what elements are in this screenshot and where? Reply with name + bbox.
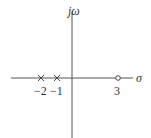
pole-label-minus-1: −1 [50, 85, 63, 97]
zero-label-3: 3 [114, 85, 120, 97]
pole-label-minus-2: −2 [34, 85, 47, 97]
zero-marker-3 [116, 76, 121, 81]
imaginary-axis-label: jω [68, 5, 80, 17]
real-axis-label: σ [136, 72, 142, 84]
pole-zero-plot [0, 0, 151, 138]
